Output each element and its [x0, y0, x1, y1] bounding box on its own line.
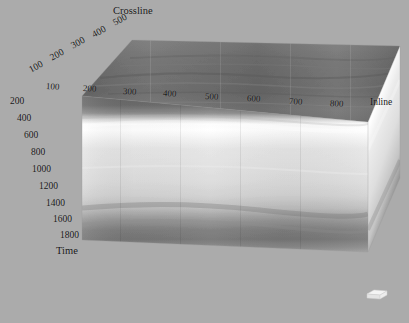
- inline-tick-100: 100: [46, 82, 60, 92]
- gizmo-front-icon: [367, 294, 380, 299]
- inline-tick-400: 400: [163, 89, 177, 99]
- time-tick-200: 200: [10, 97, 24, 107]
- inline-axis-title: Inline: [370, 98, 392, 108]
- seismic-3d-viewer[interactable]: 100 200 300 400 500 Crossline 100 200 30…: [0, 0, 409, 323]
- inline-tick-500: 500: [205, 92, 219, 102]
- inline-tick-700: 700: [289, 97, 303, 107]
- time-tick-1400: 1400: [46, 199, 65, 209]
- time-tick-800: 800: [31, 148, 45, 158]
- inline-tick-600: 600: [247, 94, 261, 104]
- time-tick-400: 400: [17, 114, 31, 124]
- time-axis-title: Time: [56, 246, 78, 257]
- crossline-axis-title: Crossline: [113, 6, 153, 17]
- time-tick-1200: 1200: [39, 182, 58, 192]
- time-tick-1800: 1800: [60, 231, 79, 241]
- time-tick-1000: 1000: [32, 165, 51, 175]
- time-tick-600: 600: [24, 131, 38, 141]
- time-tick-1600: 1600: [53, 215, 72, 225]
- inline-tick-800: 800: [330, 99, 344, 109]
- inline-tick-200: 200: [83, 84, 97, 94]
- orientation-gizmo[interactable]: [363, 286, 391, 304]
- inline-tick-300: 300: [123, 87, 137, 97]
